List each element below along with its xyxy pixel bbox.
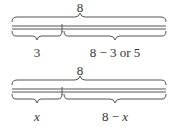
total-length-label: 8 [77, 1, 84, 14]
left-part-label: x [34, 110, 40, 123]
right-part-number: 8 − [102, 109, 122, 124]
right-part-label: 8 − 3 or 5 [90, 46, 141, 59]
right-part-label: 8 − x [102, 110, 128, 123]
right-brace [64, 31, 166, 40]
top-brace [12, 76, 166, 85]
left-brace [12, 31, 62, 40]
segment-braces-graphic [0, 0, 176, 63]
segment-diagram-algebraic: 8 x 8 − x [0, 63, 176, 126]
segment-diagram-numeric: 8 3 8 − 3 or 5 [0, 0, 176, 63]
left-part-label: 3 [34, 46, 41, 59]
left-brace [12, 94, 62, 103]
right-brace [64, 94, 166, 103]
right-part-variable: x [122, 109, 128, 124]
total-length-label: 8 [77, 64, 84, 77]
top-brace [12, 13, 166, 22]
segment-braces-graphic [0, 63, 176, 126]
